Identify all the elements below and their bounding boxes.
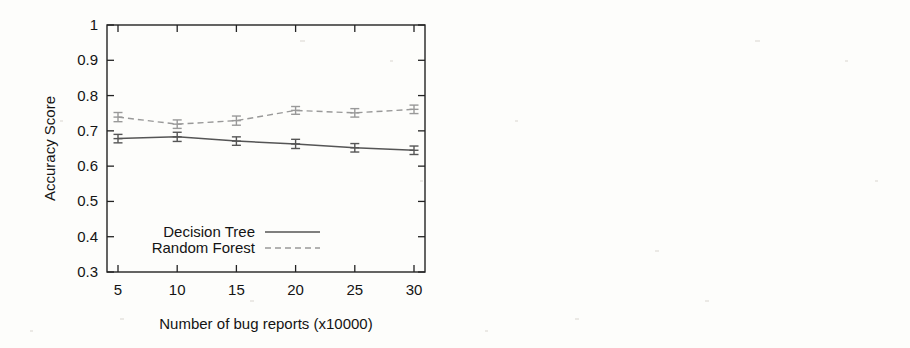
- accuracy-line-chart-right: 0.30.40.50.60.70.80.9151015202530Decisio…: [455, 0, 910, 348]
- error-bar: [410, 105, 419, 113]
- legend-label-random-forest: Random Forest: [152, 239, 256, 256]
- error-bar: [350, 144, 359, 152]
- series-line-decision-tree: [118, 137, 414, 150]
- accuracy-line-chart-left: 0.30.40.50.60.70.80.9151015202530Decisio…: [0, 0, 455, 348]
- error-bar: [173, 132, 182, 141]
- y-tick-label: 0.7: [77, 122, 98, 139]
- paper-speck: [250, 300, 254, 302]
- error-bar: [291, 139, 300, 148]
- error-bar: [114, 113, 123, 122]
- paper-speck: [655, 250, 659, 252]
- x-axis-title: Number of bug reports (x10000): [159, 315, 372, 332]
- paper-speck: [300, 40, 305, 42]
- chart-panel-left: 0.30.40.50.60.70.80.9151015202530Decisio…: [0, 0, 455, 348]
- paper-speck: [485, 330, 488, 332]
- error-bar: [114, 134, 123, 142]
- y-tick-label: 0.3: [77, 263, 98, 280]
- paper-speck: [120, 318, 124, 320]
- series-line-random-forest: [118, 109, 414, 124]
- paper-speck: [705, 300, 709, 302]
- error-bar: [232, 116, 241, 125]
- y-axis-title: Accuracy Score: [41, 96, 58, 201]
- x-tick-label: 10: [169, 281, 186, 298]
- x-tick-label: 30: [406, 281, 423, 298]
- paper-speck: [575, 318, 579, 320]
- y-tick-label: 0.9: [77, 51, 98, 68]
- paper-speck: [515, 120, 518, 122]
- x-tick-label: 20: [287, 281, 304, 298]
- x-tick-label: 15: [228, 281, 245, 298]
- paper-speck: [60, 120, 63, 122]
- paper-speck: [875, 180, 878, 182]
- paper-speck: [30, 330, 33, 332]
- y-tick-label: 0.6: [77, 157, 98, 174]
- chart-panel-right: 0.30.40.50.60.70.80.9151015202530Decisio…: [455, 0, 910, 348]
- legend-label-decision-tree: Decision Tree: [163, 223, 255, 240]
- paper-speck: [390, 60, 393, 62]
- error-bar: [232, 137, 241, 145]
- paper-speck: [420, 180, 423, 182]
- x-tick-label: 5: [114, 281, 122, 298]
- error-bar: [410, 146, 419, 154]
- paper-speck: [755, 40, 760, 42]
- error-bar: [173, 120, 182, 128]
- y-tick-label: 0.4: [77, 228, 98, 245]
- error-bar: [291, 107, 300, 115]
- y-tick-label: 1: [90, 16, 98, 33]
- paper-speck: [845, 60, 848, 62]
- y-tick-label: 0.8: [77, 87, 98, 104]
- x-tick-label: 25: [346, 281, 363, 298]
- y-tick-label: 0.5: [77, 192, 98, 209]
- error-bar: [350, 109, 359, 117]
